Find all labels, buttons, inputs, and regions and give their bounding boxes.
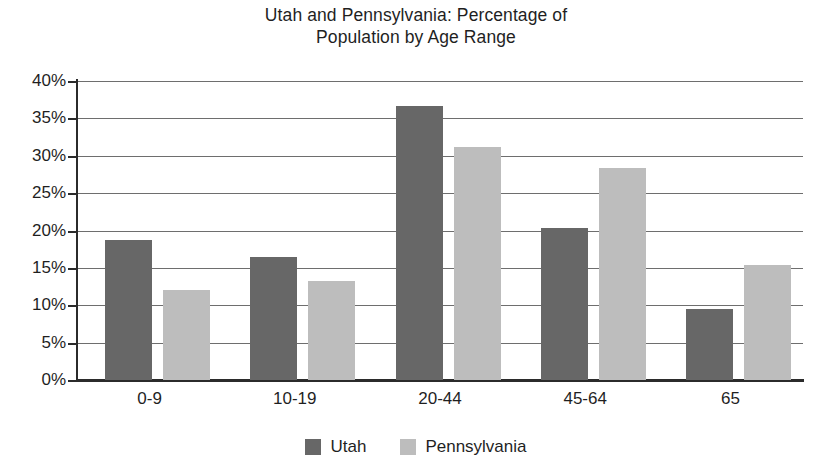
legend-swatch-icon: [400, 439, 416, 455]
y-axis-tick-label: 25%: [4, 183, 66, 203]
legend-item-utah[interactable]: Utah: [305, 437, 366, 457]
y-axis-labels: 0%5%10%15%20%25%30%35%40%: [0, 81, 66, 380]
bar-utah-10-19: [250, 257, 297, 380]
bar-pennsylvania-10-19: [308, 281, 355, 380]
y-axis-tick: [68, 305, 78, 307]
y-axis-tick: [68, 193, 78, 195]
bar-utah-20-44: [396, 106, 443, 380]
y-axis-tick-label: 20%: [4, 221, 66, 241]
y-axis-tick: [68, 343, 78, 345]
y-axis-tick-label: 15%: [4, 258, 66, 278]
bar-utah-0-9: [105, 240, 152, 380]
y-axis-tick: [68, 231, 78, 233]
x-axis-tick-label: 0-9: [77, 389, 222, 409]
bar-pennsylvania-20-44: [454, 147, 501, 380]
x-axis-tick-label: 65: [658, 389, 803, 409]
y-axis-tick-label: 0%: [4, 370, 66, 390]
legend-item-pennsylvania[interactable]: Pennsylvania: [400, 437, 526, 457]
bar-pennsylvania-0-9: [163, 290, 210, 380]
bar-chart: Utah and Pennsylvania: Percentage of Pop…: [0, 0, 832, 473]
x-axis-tick-label: 20-44: [367, 389, 512, 409]
y-axis-tick: [68, 156, 78, 158]
y-axis-tick-label: 35%: [4, 108, 66, 128]
gridline: [77, 81, 803, 82]
chart-title: Utah and Pennsylvania: Percentage of Pop…: [0, 4, 832, 48]
chart-legend: UtahPennsylvania: [0, 437, 832, 457]
y-axis-tick: [68, 268, 78, 270]
y-axis-tick-label: 5%: [4, 333, 66, 353]
y-axis-tick-label: 40%: [4, 71, 66, 91]
legend-label: Utah: [330, 437, 366, 457]
plot-area: [77, 81, 803, 380]
legend-label: Pennsylvania: [425, 437, 526, 457]
y-axis-tick: [68, 380, 78, 382]
bar-utah-65: [686, 309, 733, 380]
legend-swatch-icon: [305, 439, 321, 455]
x-axis-tick-label: 10-19: [222, 389, 367, 409]
y-axis-tick-label: 30%: [4, 146, 66, 166]
y-axis-tick: [68, 81, 78, 83]
y-axis-tick: [68, 118, 78, 120]
y-axis-tick-label: 10%: [4, 295, 66, 315]
x-axis-tick-label: 45-64: [513, 389, 658, 409]
bar-pennsylvania-65: [744, 265, 791, 380]
bar-utah-45-64: [541, 228, 588, 380]
bar-pennsylvania-45-64: [599, 168, 646, 380]
